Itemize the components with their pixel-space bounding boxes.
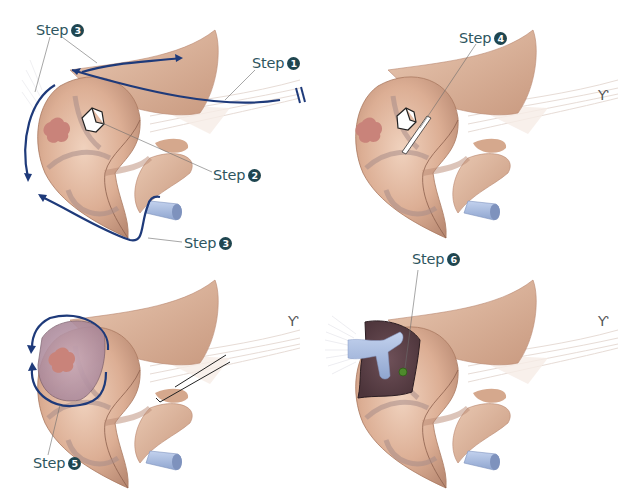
- step-number-badge: 5: [68, 457, 81, 470]
- step-label-5: Step 5: [33, 455, 81, 471]
- step-label-text: Step: [33, 455, 65, 471]
- panel-4: Ƴ: [325, 270, 618, 488]
- step-label-text: Step: [252, 55, 284, 71]
- step-number-badge: 3: [71, 24, 84, 37]
- panel-2: Ƴ: [355, 30, 618, 238]
- excision-cavity: [358, 321, 420, 398]
- step-label-3a: Step 3: [36, 22, 84, 38]
- svg-text:Ƴ: Ƴ: [597, 313, 609, 329]
- clip-marker: [399, 368, 407, 376]
- step-label-3b: Step 3: [184, 235, 232, 251]
- step-label-text: Step: [36, 22, 68, 38]
- step-label-text: Step: [213, 167, 245, 183]
- svg-text:Ƴ: Ƴ: [287, 313, 299, 329]
- step-number-badge: 2: [248, 169, 261, 182]
- svg-text:Ƴ: Ƴ: [597, 87, 609, 103]
- step-number-badge: 4: [494, 32, 507, 45]
- step-label-text: Step: [184, 235, 216, 251]
- step-number-badge: 1: [287, 57, 300, 70]
- surgical-steps-figure: Ƴ Ƴ Ƴ: [0, 0, 631, 491]
- step-label-text: Step: [412, 251, 444, 267]
- step-number-badge: 6: [447, 253, 460, 266]
- step-label-2: Step 2: [213, 167, 261, 183]
- step-label-1: Step 1: [252, 55, 300, 71]
- step-label-text: Step: [459, 30, 491, 46]
- step-label-4: Step 4: [459, 30, 507, 46]
- step-number-badge: 3: [219, 237, 232, 250]
- step-label-6: Step 6: [412, 251, 460, 267]
